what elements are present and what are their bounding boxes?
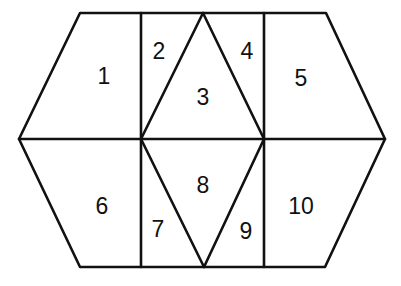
region-label-7: 7 [152,216,165,242]
hexagon-diagram: 1 2 3 4 5 6 7 8 9 10 [0,0,401,286]
region-label-1: 1 [98,63,111,89]
upper-triangle-right-edge [203,13,264,139]
region-label-2: 2 [153,38,166,64]
lower-triangle-right-edge [204,139,264,267]
region-label-10: 10 [288,193,314,219]
region-label-3: 3 [197,84,210,110]
region-label-8: 8 [197,172,210,198]
region-label-5: 5 [295,65,308,91]
upper-triangle-left-edge [141,13,203,139]
region-label-6: 6 [96,193,109,219]
region-label-4: 4 [241,38,254,64]
region-label-9: 9 [240,218,253,244]
lower-triangle-left-edge [141,139,204,267]
